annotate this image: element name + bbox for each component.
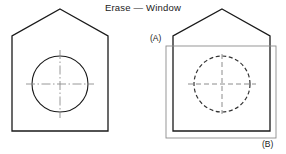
selection-window-rectangle [166, 46, 276, 138]
corner-label-a: (A) [150, 33, 161, 43]
erase-window-illustration [0, 0, 286, 154]
corner-label-b: (B) [262, 139, 273, 149]
panel-before [12, 9, 108, 131]
figure-canvas: Erase — Window (A) [0, 0, 286, 154]
panel-after [166, 9, 276, 138]
